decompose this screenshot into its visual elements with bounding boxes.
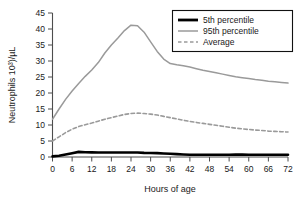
x-tick-label: 36: [166, 164, 176, 174]
y-axis-title: Neutrophils 10³)/µL: [7, 47, 17, 124]
x-tick-label: 66: [264, 164, 274, 174]
y-tick-label: 5: [40, 136, 45, 146]
y-tick-label: 20: [36, 88, 46, 98]
x-tick-label: 6: [70, 164, 75, 174]
y-tick-label: 40: [36, 24, 46, 34]
neutrophil-reference-chart: 051015202530354045 061218243036424854606…: [0, 0, 303, 202]
legend-label-average: Average: [203, 37, 235, 47]
x-tick-label: 18: [107, 164, 117, 174]
y-tick-label: 25: [36, 72, 46, 82]
x-tick-label: 48: [205, 164, 215, 174]
legend-label-95th-percentile: 95th percentile: [203, 26, 259, 36]
chart-container: 051015202530354045 061218243036424854606…: [0, 0, 303, 202]
x-tick-label: 42: [185, 164, 195, 174]
y-tick-label: 30: [36, 56, 46, 66]
y-tick-label: 10: [36, 120, 46, 130]
legend-label-5th-percentile: 5th percentile: [203, 15, 254, 25]
x-tick-label: 72: [283, 164, 293, 174]
y-tick-label: 15: [36, 104, 46, 114]
x-tick-label: 24: [126, 164, 136, 174]
x-tick-label: 54: [224, 164, 234, 174]
y-tick-label: 0: [40, 152, 45, 162]
x-axis-title: Hours of age: [144, 184, 196, 194]
chart-legend: 5th percentile 95th percentile Average: [173, 11, 293, 52]
x-tick-label: 60: [244, 164, 254, 174]
x-tick-label: 30: [146, 164, 156, 174]
x-tick-label: 12: [87, 164, 97, 174]
y-tick-label: 35: [36, 40, 46, 50]
x-tick-label: 0: [50, 164, 55, 174]
y-tick-label: 45: [36, 8, 46, 18]
